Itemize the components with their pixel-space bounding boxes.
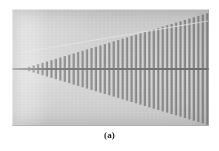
micrograph-image	[12, 9, 209, 126]
figure-container: (a)	[0, 0, 219, 151]
grating-structure-graphic	[12, 9, 209, 126]
figure-caption: (a)	[0, 129, 219, 141]
